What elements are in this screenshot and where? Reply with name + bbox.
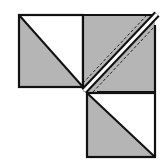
bottom-right-square xyxy=(87,93,155,157)
quilt-diagram xyxy=(0,0,162,163)
top-right-square xyxy=(83,14,157,92)
top-left-square xyxy=(19,15,83,87)
